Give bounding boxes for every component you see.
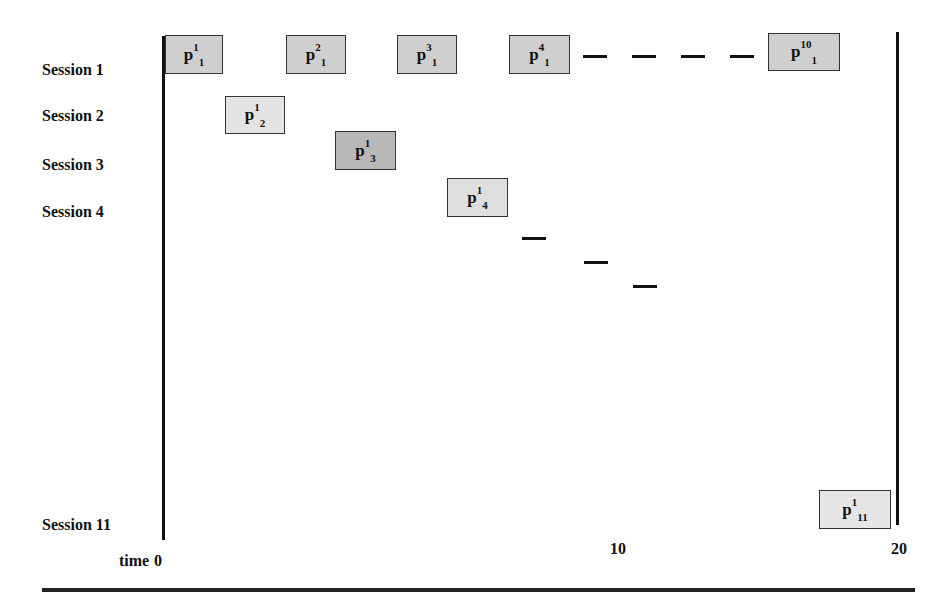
time-tick-0: 0 (154, 552, 162, 570)
block-p1-4: p14 (447, 178, 508, 217)
block-p1-1: p11 (165, 35, 223, 74)
block-sub: 1 (321, 56, 327, 68)
block-sub: 1 (199, 56, 205, 68)
block-sub: 11 (857, 511, 867, 523)
block-sub: 4 (482, 199, 488, 211)
block-base: p (306, 45, 315, 64)
time-axis-label: time (119, 552, 149, 570)
block-p2-1: p21 (286, 35, 346, 74)
block-base: p (467, 188, 476, 207)
block-sup: 1 (254, 101, 260, 113)
time-tick-10: 10 (610, 540, 626, 558)
block-sup: 1 (852, 496, 858, 508)
block-sub: 3 (370, 152, 376, 164)
block-sup: 2 (315, 41, 321, 53)
block-sub: 2 (260, 117, 266, 129)
session-label-4: Session 4 (42, 203, 104, 221)
continuation-dash (522, 237, 546, 240)
block-sup: 1 (477, 184, 483, 196)
block-base: p (184, 45, 193, 64)
block-sup: 1 (193, 41, 199, 53)
block-base: p (529, 45, 538, 64)
block-base: p (245, 105, 254, 124)
block-p4-1: p41 (509, 35, 570, 74)
session-label-11: Session 11 (42, 516, 111, 534)
time-start-line (162, 36, 165, 540)
continuation-dash (583, 55, 607, 58)
block-p1-2: p12 (225, 96, 285, 134)
block-base: p (355, 141, 364, 160)
bottom-rule (42, 588, 915, 592)
block-sub: 1 (544, 56, 550, 68)
block-sub: 1 (811, 54, 817, 66)
continuation-dash (681, 55, 705, 58)
continuation-dash (730, 55, 754, 58)
time-end-line (896, 32, 899, 525)
block-sub: 1 (432, 56, 438, 68)
block-sup: 3 (426, 41, 432, 53)
session-label-2: Session 2 (42, 107, 104, 125)
block-p10-1: p101 (768, 33, 840, 71)
session-label-1: Session 1 (42, 61, 104, 79)
time-tick-20: 20 (891, 540, 907, 558)
block-p3-1: p31 (397, 35, 457, 74)
continuation-dash (633, 285, 657, 288)
block-sup: 10 (800, 38, 811, 50)
block-sup: 4 (539, 41, 545, 53)
session-label-3: Session 3 (42, 156, 104, 174)
block-base: p (417, 45, 426, 64)
block-sup: 1 (365, 137, 371, 149)
continuation-dash (584, 261, 608, 264)
continuation-dash (632, 55, 656, 58)
block-p1-11: p111 (819, 490, 891, 529)
block-p1-3: p13 (335, 131, 396, 170)
block-base: p (842, 500, 851, 519)
